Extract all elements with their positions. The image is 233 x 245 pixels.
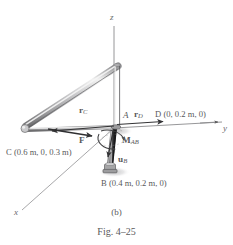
vector-rD-arrow xyxy=(117,122,163,125)
point-label-C: C (0.6 m, 0, 0.3 m) xyxy=(6,148,72,157)
point-label-C-coords: (0.6 m, 0, 0.3 m) xyxy=(14,147,72,157)
vector-label-uB-subscript: B xyxy=(123,157,127,164)
point-label-B-letter: B xyxy=(101,178,107,188)
point-label-A: A xyxy=(123,111,129,120)
point-label-B-coords: (0.4 m, 0.2 m, 0) xyxy=(109,178,167,188)
vector-label-MAB: MAB xyxy=(122,136,139,146)
point-label-D-coords: (0, 0.2 m, 0) xyxy=(163,109,206,119)
point-label-D: D (0, 0.2 m, 0) xyxy=(155,110,206,119)
vector-label-F: F xyxy=(79,136,85,145)
member-vertical-post xyxy=(114,64,121,128)
member-boom-top xyxy=(26,64,118,129)
joint-C xyxy=(21,125,29,133)
vector-label-uB: uB xyxy=(118,155,127,165)
point-label-B: B (0.4 m, 0.2 m, 0) xyxy=(101,179,167,188)
point-label-C-letter: C xyxy=(6,147,12,157)
vector-label-rC-subscript: C xyxy=(83,108,87,115)
vector-label-rC: rC xyxy=(79,106,88,116)
support-bracket-B xyxy=(103,163,117,173)
axis-y-arrowhead xyxy=(200,122,218,123)
axis-x xyxy=(22,128,114,210)
vector-label-rD-subscript: D xyxy=(138,112,143,119)
vector-label-rD: rD xyxy=(134,110,143,120)
point-label-D-letter: D xyxy=(155,109,161,119)
axis-label-z: z xyxy=(110,13,114,22)
vector-label-MAB-symbol: M xyxy=(122,135,131,145)
vector-label-MAB-subscript: AB xyxy=(131,138,139,145)
caption-figure-number: Fig. 4–25 xyxy=(0,226,233,237)
axis-label-y: y xyxy=(223,124,227,133)
figure-container: z y x A rC rD D (0, 0.2 m, 0) F C (0.6 m… xyxy=(0,0,233,245)
caption-subfigure: (b) xyxy=(0,207,233,217)
